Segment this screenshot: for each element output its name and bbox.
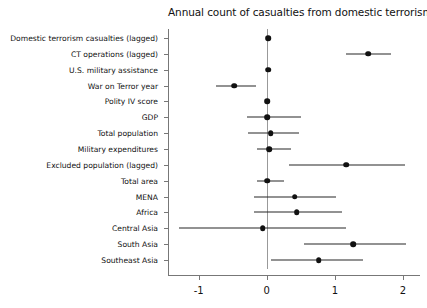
point-estimate-marker (365, 51, 371, 57)
y-axis-label: South Asia (118, 240, 158, 249)
x-tick-label: 1 (332, 285, 338, 296)
y-axis-label: Military expenditures (78, 145, 158, 154)
y-axis-label: Total area (121, 176, 158, 185)
y-axis-category-labels: Domestic terrorism casualties (lagged)CT… (0, 29, 163, 276)
confidence-interval-line (257, 180, 285, 181)
point-estimate-marker (265, 67, 271, 73)
point-estimate-marker (265, 114, 271, 120)
y-axis-label: Southeast Asia (101, 256, 158, 265)
point-estimate-marker (265, 99, 271, 105)
y-axis-label: Domestic terrorism casualties (lagged) (10, 34, 158, 43)
coefficient-plot-figure: Annual count of casualties from domestic… (0, 0, 427, 308)
x-tick-label: 2 (400, 285, 406, 296)
chart-title: Annual count of casualties from domestic… (168, 6, 427, 19)
y-axis-label: Excluded population (lagged) (46, 160, 158, 169)
point-estimate-marker (268, 130, 274, 136)
point-estimate-marker (265, 178, 271, 184)
y-axis-label: Africa (136, 208, 158, 217)
confidence-interval-line (247, 117, 301, 118)
x-tick-label: 0 (264, 285, 270, 296)
x-tick-mark (335, 276, 336, 280)
y-axis-label: Central Asia (112, 224, 158, 233)
point-estimate-marker (260, 225, 266, 231)
point-estimate-marker (316, 257, 322, 263)
x-tick-mark (403, 276, 404, 280)
x-tick-label: -1 (194, 285, 204, 296)
y-axis-label: U.S. military assistance (69, 65, 158, 74)
y-axis-label: CT operations (lagged) (71, 49, 158, 58)
point-estimate-marker (231, 83, 237, 89)
y-axis-label: War on Terror year (88, 81, 158, 90)
estimate-series (168, 29, 420, 276)
plot-panel: -1012 (168, 29, 420, 276)
point-estimate-marker (350, 241, 356, 247)
confidence-interval-line (257, 149, 291, 150)
point-estimate-marker (344, 162, 350, 168)
y-axis-label: Polity IV score (105, 97, 158, 106)
y-axis-label: GDP (142, 113, 158, 122)
x-tick-mark (199, 276, 200, 280)
point-estimate-marker (294, 210, 300, 216)
y-axis-label: MENA (136, 192, 158, 201)
x-tick-mark (267, 276, 268, 280)
point-estimate-marker (267, 146, 273, 152)
y-axis-label: Total population (97, 129, 158, 138)
point-estimate-marker (292, 194, 298, 200)
point-estimate-marker (265, 35, 271, 41)
